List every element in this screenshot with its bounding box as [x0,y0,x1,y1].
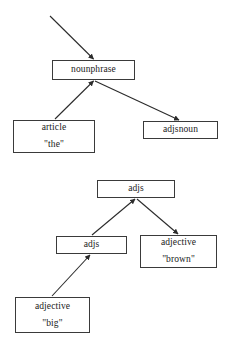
node-nounphrase: nounphrase [52,60,135,80]
node-label: adjs [128,184,144,194]
node-adjs-top: adjs [97,180,175,198]
node-lexeme: "brown" [162,255,195,265]
edge-adjsmid-to-adjstop [92,199,135,235]
edge-nounphrase-to-adjsnoun [95,81,179,120]
node-label: adjective [161,238,196,248]
node-adjsnoun: adjsnoun [143,121,218,139]
node-label: adjective [35,302,70,312]
node-article: article "the" [13,120,95,153]
edge-adjstop-to-adjectivebrown [137,199,178,234]
edge-article-to-nounphrase [55,81,94,119]
node-label: article [42,123,66,133]
node-lexeme: "big" [42,319,62,329]
node-adjs-mid: adjs [56,236,127,254]
node-adjective-brown: adjective "brown" [140,235,217,268]
edge-external-to-nounphrase [50,16,94,59]
edge-adjectivebig-to-adjsmid [52,255,90,296]
node-lexeme: "the" [44,140,64,150]
node-label: adjsnoun [163,125,198,135]
node-label: nounphrase [71,65,116,75]
node-label: adjs [84,240,100,250]
node-adjective-big: adjective "big" [15,297,90,333]
parse-tree-diagram: nounphrase article "the" adjsnoun adjs a… [0,0,229,352]
